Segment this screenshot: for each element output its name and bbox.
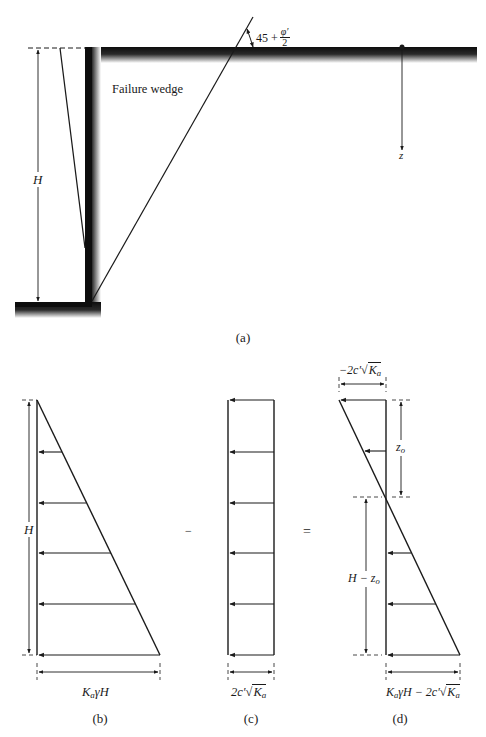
angle-prefix: 45 + xyxy=(256,32,278,44)
equals-operator: = xyxy=(303,525,311,539)
base-label-c: 2c′√Ka xyxy=(231,686,266,700)
zo-label: zo xyxy=(396,440,405,456)
panel-a-retaining-wall xyxy=(15,17,477,318)
angle-arc xyxy=(247,29,253,47)
panel-label-b: (b) xyxy=(92,712,107,725)
height-label-b: H xyxy=(24,522,33,537)
base-ground-top xyxy=(15,302,92,307)
height-label-a: H xyxy=(33,172,42,187)
angle-fraction: φ′ 2 xyxy=(280,27,290,48)
angle-denominator: 2 xyxy=(282,38,287,48)
retaining-wall-face xyxy=(85,47,92,305)
ground-surface xyxy=(85,47,477,63)
panel-d-net-pressure-diagram xyxy=(339,377,460,680)
minus-operator: − xyxy=(185,525,192,537)
panel-label-d: (d) xyxy=(392,712,407,725)
failure-wedge-label: Failure wedge xyxy=(112,83,183,96)
base-label-d: KaγH − 2c′√Ka xyxy=(386,686,460,700)
panel-c-cohesion-diagram xyxy=(228,400,274,680)
base-label-b: KaγH xyxy=(82,686,109,700)
h-minus-zo-label: H − zo xyxy=(348,571,380,587)
panel-label-c: (c) xyxy=(244,712,258,725)
top-label-d: −2c′√Ka xyxy=(339,364,381,378)
panel-label-a: (a) xyxy=(236,331,250,344)
wall-tilt-line xyxy=(60,48,85,248)
failure-angle-label: 45 + φ′ 2 xyxy=(256,27,290,48)
panel-b-earth-pressure-diagram xyxy=(22,400,160,680)
depth-z-label: z xyxy=(399,150,403,161)
rankine-active-pressure-figure xyxy=(0,0,486,737)
